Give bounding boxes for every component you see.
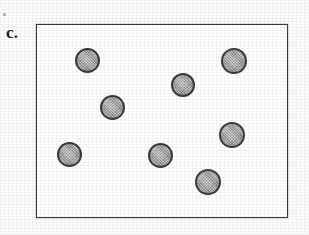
container-rectangle [36, 24, 288, 218]
particle-circle [171, 73, 195, 97]
particle-circle [100, 95, 125, 120]
scan-speck-artifact [3, 13, 6, 16]
panel-label: c. [6, 24, 18, 41]
particle-circle [75, 48, 100, 73]
particle-circle [219, 122, 245, 148]
particle-circle [195, 169, 221, 195]
figure-panel-c: c. [0, 0, 309, 235]
particle-circle [148, 143, 173, 168]
particle-circle [221, 48, 247, 74]
particle-circle [57, 142, 82, 167]
